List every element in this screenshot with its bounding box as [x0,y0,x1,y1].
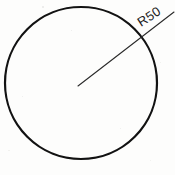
radius-dimension-label: R50 [134,3,163,29]
drawing-canvas: R50 [0,0,175,175]
technical-drawing: R50 [0,0,175,175]
